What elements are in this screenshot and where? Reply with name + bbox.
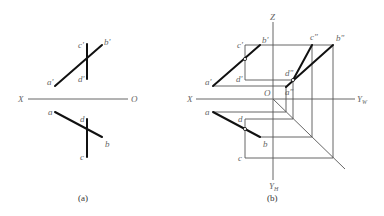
projection-diagram: X O a' b' c' d' a b c d (a) Z X O YW YH (0, 0, 384, 216)
z-axis-label: Z (270, 12, 276, 22)
yw-axis-label: YW (357, 94, 368, 105)
label-d-prime: d' (78, 74, 86, 84)
label-c-b: c (238, 153, 242, 163)
line-ab-top-view-b (213, 112, 260, 137)
intersection-point-top (243, 127, 246, 130)
caption-a: (a) (78, 193, 88, 203)
label-d-b: d (238, 114, 243, 124)
label-a-prime-b: a' (205, 77, 213, 87)
label-c: c (80, 152, 84, 162)
line-cd-side-view (293, 45, 312, 80)
label-a-prime: a' (47, 77, 55, 87)
caption-b: (b) (267, 193, 278, 203)
label-d-double-prime: d" (285, 68, 294, 78)
label-c-prime: c' (78, 40, 85, 50)
x-axis-label-b: X (186, 94, 193, 104)
miter-line-45deg (273, 99, 345, 169)
intersection-point-side (291, 78, 294, 81)
x-axis-label-a: X (17, 94, 24, 104)
origin-label-b: O (264, 88, 271, 98)
projection-line-d-top (245, 119, 293, 125)
label-c-double-prime: c" (310, 32, 318, 42)
label-b-prime-b: b' (262, 35, 270, 45)
label-b-prime: b' (104, 37, 112, 47)
label-a-b: a (205, 107, 210, 117)
label-a-double-prime: a" (285, 87, 294, 97)
intersection-point-front (243, 57, 246, 60)
label-d-prime-b: d' (236, 74, 244, 84)
origin-label-a: O (131, 94, 138, 104)
label-a: a (48, 107, 53, 117)
label-b-double-prime: b" (336, 33, 345, 43)
label-c-prime-b: c' (237, 40, 244, 50)
figure-a: X O a' b' c' d' a b c d (a) (17, 37, 138, 203)
figure-b: Z X O YW YH a' b' c' d' c" b" d" a" (186, 12, 368, 203)
projection-lines-c-b (245, 45, 333, 158)
yh-axis-label: YH (269, 181, 279, 192)
label-d: d (80, 114, 85, 124)
label-b: b (105, 139, 110, 149)
label-b-b: b (263, 139, 268, 149)
line-ab-top-view (55, 112, 102, 137)
